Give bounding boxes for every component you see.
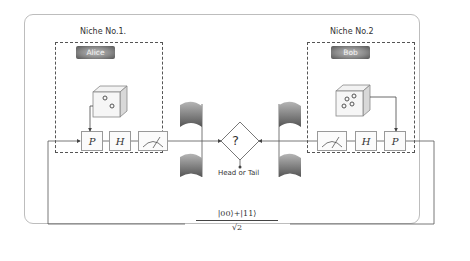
entangled-state-formula: |00⟩+|11⟩ √2	[196, 209, 278, 232]
formula-denominator: √2	[196, 223, 278, 232]
formula-numerator: |00⟩+|11⟩	[196, 209, 278, 218]
decision-diamond	[221, 122, 259, 160]
head-or-tail-label: Head or Tail	[218, 169, 259, 177]
question-mark: ?	[232, 133, 239, 148]
dice-bob-icon	[336, 85, 370, 116]
dice-alice-icon	[93, 86, 127, 117]
